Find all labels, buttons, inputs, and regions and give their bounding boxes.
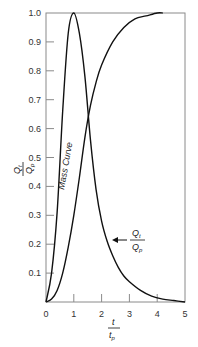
hydrograph-chart: 0.10.20.30.40.50.60.70.80.91.0 012345 Ma…: [0, 0, 198, 347]
x-axis-label: t tp: [108, 317, 120, 341]
y-tick-label: 1.0: [28, 8, 41, 18]
y-axis-label: Qt Qp: [12, 162, 35, 176]
y-axis: 0.10.20.30.40.50.60.70.80.91.0: [28, 8, 54, 278]
y-tick-label: 0.6: [28, 124, 41, 134]
svg-text:t: t: [112, 317, 115, 327]
y-tick-label: 0.8: [28, 66, 41, 76]
x-tick-label: 2: [99, 309, 104, 319]
x-tick-label: 3: [127, 309, 132, 319]
annotation-denominator: Qp: [132, 242, 143, 253]
svg-text:Qt: Qt: [12, 165, 23, 174]
svg-text:tp: tp: [109, 330, 116, 341]
y-tick-label: 0.7: [28, 95, 41, 105]
y-tick-label: 0.4: [28, 181, 41, 191]
x-axis: 012345: [43, 294, 187, 319]
annotation-numerator: Qt: [132, 228, 141, 239]
y-tick-label: 0.9: [28, 37, 41, 47]
y-tick-label: 0.2: [28, 239, 41, 249]
x-tick-label: 4: [155, 309, 160, 319]
x-tick-label: 1: [71, 309, 76, 319]
hydrograph-annotation: Qt Qp: [112, 228, 145, 253]
x-tick-label: 5: [182, 309, 187, 319]
svg-text:Qp: Qp: [24, 163, 35, 174]
y-tick-label: 0.5: [28, 153, 41, 163]
mass-curve-label: Mass Curve: [56, 141, 74, 190]
y-tick-label: 0.1: [28, 268, 41, 278]
y-tick-label: 0.3: [28, 210, 41, 220]
arrow-left-icon: [112, 237, 118, 243]
x-tick-label: 0: [43, 309, 48, 319]
